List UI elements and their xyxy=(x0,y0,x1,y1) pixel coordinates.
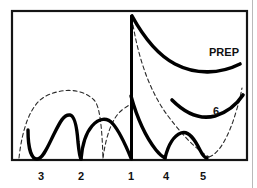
axis-tick-label-4: 4 xyxy=(163,170,170,182)
axis-tick-label-2: 2 xyxy=(78,170,84,182)
axis-tick-label-1: 1 xyxy=(128,170,134,182)
series-label-prep: PREP xyxy=(209,46,239,58)
plot-canvas: 3 2 1 4 5 PREP 6 xyxy=(0,0,257,188)
axis-tick-label-3: 3 xyxy=(38,170,44,182)
series-label-six: 6 xyxy=(213,105,219,117)
figure-container: 3 2 1 4 5 PREP 6 xyxy=(0,0,257,188)
axis-tick-label-5: 5 xyxy=(200,170,206,182)
